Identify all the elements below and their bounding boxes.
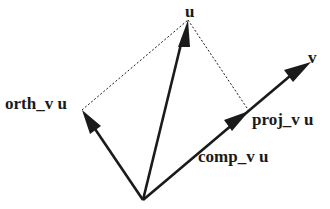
label-v: v — [308, 49, 317, 66]
label-u: u — [185, 3, 194, 20]
label-proj: proj_v u — [252, 111, 314, 128]
dashed-line-u-to-proj — [188, 20, 249, 111]
label-comp: comp_v u — [198, 148, 268, 165]
vector-v-arrow — [143, 62, 311, 200]
vector-u-arrow — [143, 20, 190, 200]
label-orth: orth_v u — [5, 95, 67, 112]
vector-projection-diagram: u v orth_v u proj_v u comp_v u — [0, 0, 330, 209]
dashed-line-orth-to-u — [82, 20, 188, 110]
vector-orth-arrow — [82, 110, 143, 200]
